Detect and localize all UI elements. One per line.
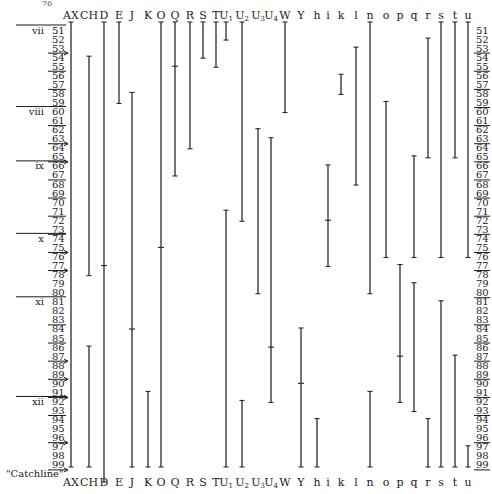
witness-label: u (464, 9, 471, 22)
witness-label: S (199, 476, 207, 489)
witness-label: D (100, 9, 109, 22)
witness-label: W (279, 476, 291, 489)
witness-label: o (383, 9, 390, 22)
witness-label: U2 (235, 476, 249, 490)
witness-label: J (129, 476, 134, 489)
gathering-label: xi (35, 296, 44, 307)
left-margin-line-numbers: 51vii525354555657585960viii616263646566i… (16, 25, 68, 472)
witness-label: U3 (251, 476, 265, 490)
collation-chart-svg: 76 51vii525354555657585960viii6162636465… (0, 0, 492, 494)
witness-label: k (338, 9, 345, 22)
witness-label: s (438, 476, 444, 489)
witness-label: i (326, 476, 330, 489)
witness-label: p (396, 476, 403, 489)
witness-label: U1 (219, 9, 233, 23)
witness-label: n (366, 9, 373, 22)
witness-label: Y (296, 9, 305, 22)
gathering-label: xii (32, 396, 44, 407)
witness-label: Q (170, 476, 179, 489)
witness-label: CH (80, 9, 98, 22)
gathering-label: vii (31, 25, 44, 36)
gathering-label: x (38, 233, 44, 244)
witness-label: U1 (219, 476, 233, 490)
collation-chart: 76 51vii525354555657585960viii6162636465… (0, 0, 492, 494)
witness-label: s (438, 9, 444, 22)
witness-label: Y (296, 476, 305, 489)
witness-label: U3 (251, 9, 265, 23)
witness-label: AX (62, 9, 79, 22)
witness-label: i (326, 9, 330, 22)
witness-label: u (464, 476, 471, 489)
witness-label: J (129, 9, 134, 22)
witness-label: AX (62, 476, 79, 489)
witness-range-bars (69, 22, 471, 482)
column-headers-bottom: AXCHDEJKOQRSTU1U2U3U4WYhiklnopqrstu (62, 476, 471, 490)
gathering-label: viii (28, 106, 44, 117)
witness-label: r (425, 476, 431, 489)
witness-label: U2 (235, 9, 249, 23)
line-number-right: 99 (476, 459, 489, 470)
witness-label: R (186, 476, 195, 489)
witness-label: S (199, 9, 207, 22)
witness-label: U4 (264, 9, 278, 23)
gathering-label: ix (35, 160, 44, 171)
witness-label: t (453, 9, 458, 22)
witness-label: q (410, 476, 417, 489)
witness-label: l (354, 476, 358, 489)
witness-label: n (366, 476, 373, 489)
witness-label: t (453, 476, 458, 489)
witness-label: CH (80, 476, 98, 489)
witness-label: l (354, 9, 358, 22)
witness-label: R (186, 9, 195, 22)
witness-label: K (144, 476, 153, 489)
witness-label: p (396, 9, 403, 22)
witness-label: O (156, 476, 165, 489)
witness-label: E (115, 9, 123, 22)
witness-label: O (156, 9, 165, 22)
witness-label: h (313, 9, 320, 22)
page-number: 76 (42, 0, 52, 8)
witness-label: W (279, 9, 291, 22)
witness-label: q (410, 9, 417, 22)
column-headers-top: AXCHDEJKOQRSTU1U2U3U4WYhiklnopqrstu (62, 9, 471, 23)
witness-label: h (313, 476, 320, 489)
witness-label: K (144, 9, 153, 22)
catchline-label: "Catchline" (6, 468, 64, 479)
witness-label: U4 (264, 476, 278, 490)
witness-label: Q (170, 9, 179, 22)
right-margin-line-numbers: 5152535455565758596061626364656667686970… (474, 25, 490, 471)
witness-label: E (115, 476, 123, 489)
witness-label: o (383, 476, 390, 489)
witness-label: r (425, 9, 431, 22)
witness-label: k (338, 476, 345, 489)
